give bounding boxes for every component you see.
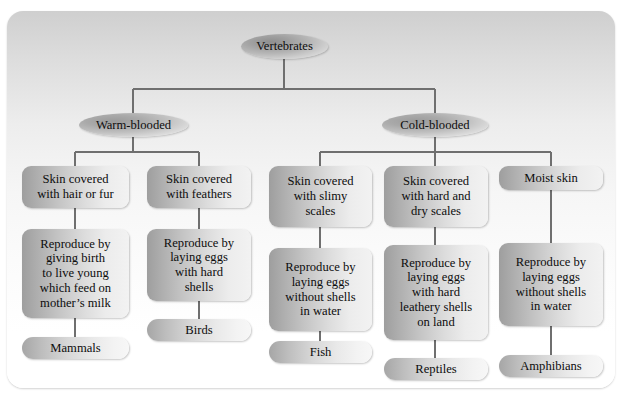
node-reproduction-fish[interactable]: Reproduce by laying eggs without shells …	[269, 248, 372, 331]
node-animal-reptiles[interactable]: Reptiles	[384, 358, 488, 380]
diagram-canvas: Vertebrates Warm-blooded Cold-blooded Sk…	[0, 0, 623, 399]
node-skin-fish[interactable]: Skin covered with slimy scales	[269, 166, 372, 227]
node-reproduction-reptiles[interactable]: Reproduce by laying eggs with hard leath…	[384, 245, 488, 340]
node-animal-mammals[interactable]: Mammals	[22, 337, 129, 359]
node-skin-birds[interactable]: Skin covered with feathers	[147, 166, 251, 208]
node-skin-reptiles[interactable]: Skin covered with hard and dry scales	[384, 166, 488, 227]
node-animal-birds[interactable]: Birds	[147, 319, 251, 341]
node-reproduction-amphibians[interactable]: Reproduce by laying eggs without shells …	[499, 243, 603, 326]
node-group-cold-blooded[interactable]: Cold-blooded	[382, 113, 488, 137]
node-skin-amphibians[interactable]: Moist skin	[499, 166, 603, 190]
node-animal-fish[interactable]: Fish	[269, 341, 372, 363]
node-skin-mammals[interactable]: Skin covered with hair or fur	[22, 166, 129, 208]
node-reproduction-mammals[interactable]: Reproduce by giving birth to live young …	[22, 229, 129, 318]
node-animal-amphibians[interactable]: Amphibians	[499, 355, 603, 377]
node-reproduction-birds[interactable]: Reproduce by laying eggs with hard shell…	[147, 229, 251, 301]
node-group-warm-blooded[interactable]: Warm-blooded	[79, 113, 188, 137]
node-root-vertebrates[interactable]: Vertebrates	[241, 34, 328, 59]
